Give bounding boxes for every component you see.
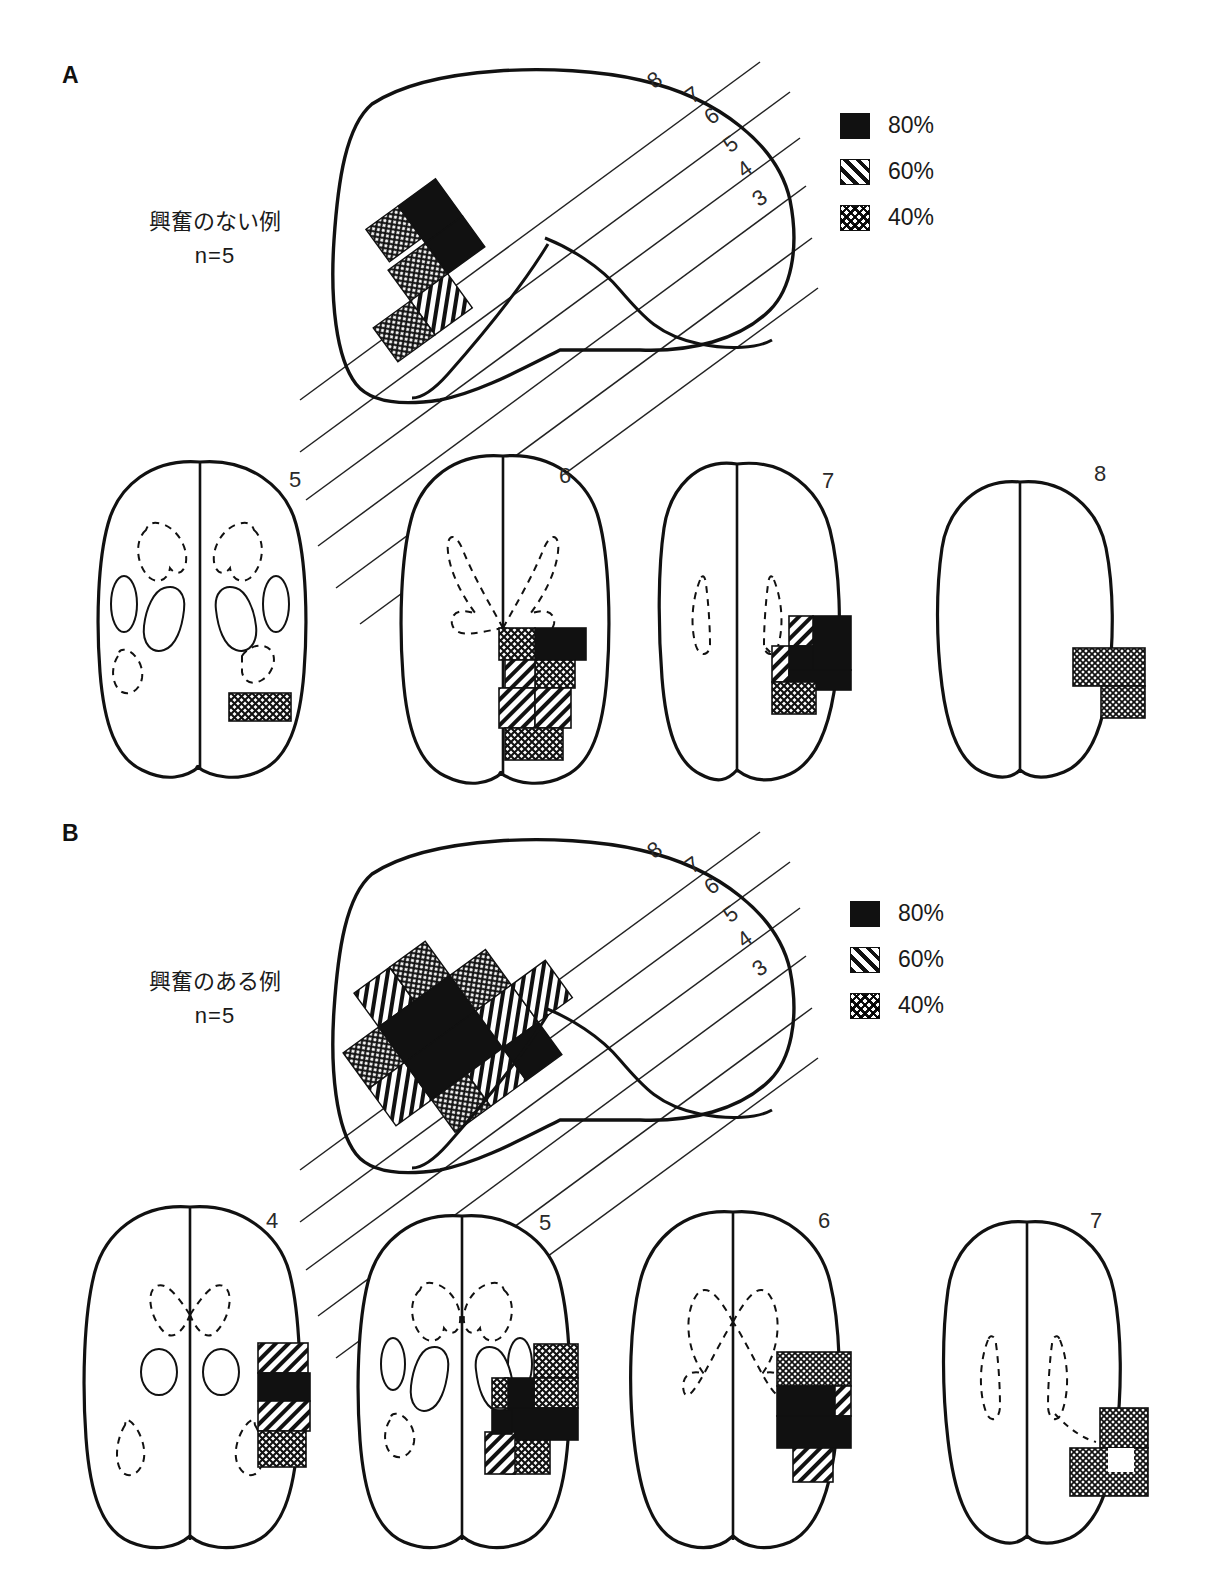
slice-number-label: 7	[822, 468, 834, 493]
panel-b-axial-slice-4: 4	[84, 1207, 310, 1548]
panel-a-axial-slice-6: 6	[401, 456, 609, 784]
panel-b-lateral-lesion	[318, 891, 595, 1158]
panel-b-axial-slice-7: 7	[944, 1208, 1149, 1543]
slice-number-label: 6	[559, 463, 571, 488]
panel-a-slice-num-6: 6	[699, 102, 724, 129]
brain-outline	[938, 482, 1113, 777]
panel-b-slice-num-8: 8	[642, 836, 667, 863]
slice-number-label: 7	[1090, 1208, 1102, 1233]
panel-b-slice-num-3: 3	[747, 954, 772, 981]
slice-number-label: 5	[289, 467, 301, 492]
slice-number-label: 8	[1094, 461, 1106, 486]
panel-a-slice-num-8: 8	[642, 66, 667, 93]
lesion-overlay	[258, 1343, 310, 1467]
panel-a-slice-num-4: 4	[732, 155, 757, 182]
slice-number-label: 5	[539, 1210, 551, 1235]
panel-b-slice-num-5: 5	[718, 900, 743, 927]
panel-a-axial-slice-5: 5	[98, 462, 306, 778]
panel-b-slice-num-6: 6	[699, 872, 724, 899]
lesion-overlay	[229, 693, 291, 721]
slice-number-label: 4	[266, 1208, 278, 1233]
panel-a-axial-slice-8: 8	[938, 461, 1146, 777]
panel-b-axial-slice-6: 6	[631, 1208, 851, 1548]
figure-canvas: 8 7 6 5 4 3 5	[0, 0, 1208, 1586]
panel-a-axial-slice-7: 7	[659, 463, 851, 780]
slice-number-label: 6	[818, 1208, 830, 1233]
panel-a-slice-num-5: 5	[718, 130, 743, 157]
panel-b-axial-slice-5: 5	[358, 1210, 578, 1548]
panel-a-slice-num-3: 3	[747, 184, 772, 211]
panel-b-slice-num-4: 4	[732, 925, 757, 952]
